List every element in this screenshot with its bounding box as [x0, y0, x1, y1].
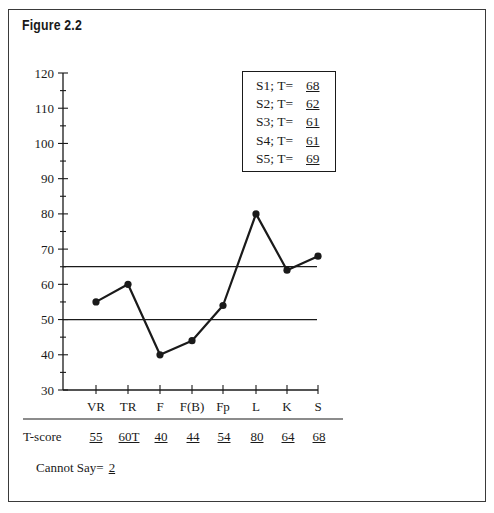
- t-score-vr: 55: [90, 429, 103, 445]
- legend-value: 61: [306, 132, 320, 150]
- t-score-f: 40: [155, 429, 168, 445]
- x-category-label: F: [156, 399, 163, 414]
- legend-value: 62: [306, 95, 320, 113]
- cannot-say-label: Cannot Say=: [36, 460, 104, 475]
- data-series: [92, 210, 321, 358]
- y-tick-label: 30: [41, 383, 54, 398]
- legend-value: 61: [306, 113, 320, 131]
- data-point: [252, 210, 259, 217]
- x-category-label: S: [314, 399, 321, 414]
- legend-label: S1; T=: [256, 77, 306, 95]
- t-score-fp: 54: [218, 429, 231, 445]
- legend-row-s4: S4; T= 61: [256, 132, 335, 150]
- y-tick-label: 70: [41, 242, 54, 257]
- legend-label: S3; T=: [256, 113, 306, 131]
- x-category-labels: VRTRFF(B)FpLKS: [87, 399, 322, 414]
- y-tick-label: 40: [41, 347, 54, 362]
- legend-row-s1: S1; T= 68: [256, 77, 335, 95]
- t-score-tr: 60T: [119, 429, 140, 445]
- x-category-label: Fp: [216, 399, 230, 414]
- legend-row-s3: S3; T= 61: [256, 113, 335, 131]
- y-tick-label: 110: [35, 101, 54, 116]
- reference-lines: [63, 267, 317, 320]
- legend-value: 68: [306, 77, 320, 95]
- x-axis: [63, 385, 318, 394]
- x-category-label: F(B): [180, 399, 205, 414]
- x-category-label: L: [252, 399, 260, 414]
- y-axis: 30405060708090100110120: [35, 66, 69, 398]
- data-point: [92, 298, 99, 305]
- y-tick-label: 120: [35, 66, 55, 81]
- t-score-fb: 44: [187, 429, 200, 445]
- data-point: [219, 302, 226, 309]
- t-score-k: 64: [282, 429, 295, 445]
- y-tick-label: 50: [41, 312, 54, 327]
- data-point: [156, 351, 163, 358]
- cannot-say-value: 2: [109, 460, 116, 475]
- data-point: [188, 337, 195, 344]
- t-score-row: T-score 55 60T 40 44 54 80 64 68: [23, 429, 353, 449]
- x-category-label: TR: [120, 399, 137, 414]
- legend-label: S4; T=: [256, 132, 306, 150]
- data-point: [283, 267, 290, 274]
- data-point: [314, 253, 321, 260]
- y-tick-label: 60: [41, 277, 54, 292]
- x-category-label: VR: [87, 399, 105, 414]
- t-score-s: 68: [313, 429, 326, 445]
- y-tick-label: 80: [41, 206, 54, 221]
- y-tick-label: 90: [41, 171, 54, 186]
- scale-legend-box: S1; T= 68 S2; T= 62 S3; T= 61 S4; T= 61 …: [242, 71, 336, 172]
- data-point: [124, 281, 131, 288]
- legend-label: S5; T=: [256, 150, 306, 168]
- legend-label: S2; T=: [256, 95, 306, 113]
- legend-value: 69: [306, 150, 320, 168]
- y-tick-label: 100: [35, 136, 55, 151]
- legend-row-s5: S5; T= 69: [256, 150, 335, 168]
- x-category-label: K: [282, 399, 292, 414]
- legend-row-s2: S2; T= 62: [256, 95, 335, 113]
- t-score-label: T-score: [23, 429, 62, 445]
- cannot-say: Cannot Say=2: [36, 460, 115, 476]
- t-score-l: 80: [251, 429, 264, 445]
